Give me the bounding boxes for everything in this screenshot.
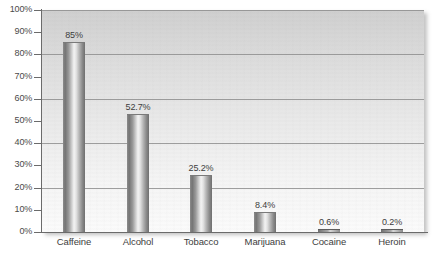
bar-value-label: 85% — [46, 30, 102, 40]
bar-value-label: 0.6% — [301, 217, 357, 227]
y-axis-tick-mark — [34, 232, 42, 233]
y-axis-tick-label: 50% — [0, 115, 32, 125]
bar — [63, 42, 85, 232]
bar — [254, 212, 276, 232]
plot-texture — [42, 10, 424, 232]
bar-chart: 100%90%80%70%60%50%40%30%20%10%0% 85%52.… — [0, 0, 436, 260]
y-axis-tick-label: 60% — [0, 93, 32, 103]
y-axis-tick-label: 20% — [0, 182, 32, 192]
gridline — [42, 54, 424, 55]
y-axis-tick-mark — [34, 10, 42, 11]
y-axis-labels: 100%90%80%70%60%50%40%30%20%10%0% — [0, 0, 32, 260]
y-axis-tick-label: 40% — [0, 137, 32, 147]
bar-value-label: 25.2% — [173, 163, 229, 173]
y-axis-tick-mark — [34, 143, 42, 144]
plot-area — [42, 10, 424, 232]
gridline — [42, 99, 424, 100]
bar — [127, 114, 149, 232]
y-axis-tick-mark — [34, 32, 42, 33]
y-axis-tick-mark — [34, 210, 42, 211]
y-axis-tick-label: 0% — [0, 226, 32, 236]
y-axis-tick-label: 70% — [0, 71, 32, 81]
bar-value-label: 52.7% — [110, 102, 166, 112]
y-axis-tick-label: 80% — [0, 48, 32, 58]
gridline — [42, 188, 424, 189]
y-axis-tick-mark — [34, 188, 42, 189]
y-axis-tick-mark — [34, 165, 42, 166]
y-axis-tick-label: 90% — [0, 26, 32, 36]
y-axis-tick-label: 100% — [0, 4, 32, 14]
y-axis-tick-mark — [34, 121, 42, 122]
y-axis-tick-label: 30% — [0, 159, 32, 169]
gridline — [42, 10, 424, 11]
y-axis-tick-mark — [34, 99, 42, 100]
bar — [190, 175, 212, 232]
x-axis-category-label: Heroin — [354, 236, 430, 247]
y-axis-tick-mark — [34, 77, 42, 78]
x-axis-line — [36, 232, 428, 233]
bar-value-label: 8.4% — [237, 200, 293, 210]
gridline — [42, 143, 424, 144]
y-axis-tick-label: 10% — [0, 204, 32, 214]
bar-value-label: 0.2% — [364, 217, 420, 227]
y-axis-tick-mark — [34, 54, 42, 55]
